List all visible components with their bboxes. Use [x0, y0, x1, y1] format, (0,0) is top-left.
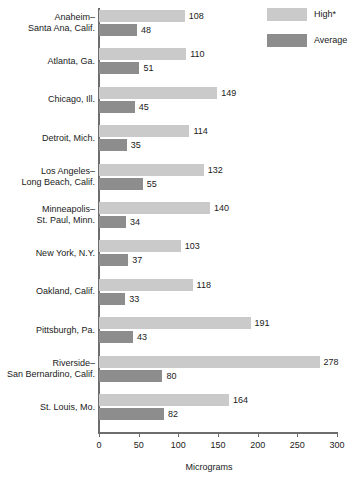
- x-axis-title: Micrograms: [0, 462, 358, 472]
- bar-value-label: 37: [132, 254, 142, 266]
- bar-value-label: 191: [255, 317, 270, 329]
- category-label: Chicago, Ill.: [0, 94, 95, 105]
- bar: [99, 293, 125, 305]
- bar: [99, 254, 128, 266]
- bar: [99, 178, 143, 190]
- bar: [99, 164, 204, 176]
- bar: [99, 48, 186, 60]
- bar: [99, 62, 139, 74]
- category-label: St. Louis, Mo.: [0, 402, 95, 413]
- x-tick-label: 0: [96, 440, 101, 450]
- bar: [99, 216, 126, 228]
- x-tick: [218, 432, 219, 437]
- bar-value-label: 140: [214, 202, 229, 214]
- bar-value-label: 43: [137, 331, 147, 343]
- bar: [99, 394, 229, 406]
- x-tick: [99, 432, 100, 437]
- x-tick: [258, 432, 259, 437]
- x-tick-label: 100: [171, 440, 186, 450]
- bar: [99, 24, 137, 36]
- plot-area: Anaheim–Santa Ana, Calif.10848Atlanta, G…: [0, 0, 358, 482]
- bar-value-label: 164: [233, 394, 248, 406]
- category-label: Anaheim–Santa Ana, Calif.: [0, 12, 95, 34]
- bar: [99, 240, 181, 252]
- x-tick-label: 300: [329, 440, 344, 450]
- bar-value-label: 33: [129, 293, 139, 305]
- x-tick-label: 50: [134, 440, 144, 450]
- bar: [99, 10, 185, 22]
- bar-value-label: 55: [147, 178, 157, 190]
- category-label: Detroit, Mich.: [0, 133, 95, 144]
- category-label: Pittsburgh, Pa.: [0, 325, 95, 336]
- bar: [99, 101, 135, 113]
- bar: [99, 139, 127, 151]
- bar-value-label: 34: [130, 216, 140, 228]
- x-tick: [297, 432, 298, 437]
- bar-value-label: 80: [166, 370, 176, 382]
- x-tick-label: 250: [290, 440, 305, 450]
- category-label: Minneapolis–St. Paul, Minn.: [0, 204, 95, 226]
- bar: [99, 125, 189, 137]
- x-tick-label: 150: [210, 440, 225, 450]
- bar-value-label: 82: [168, 408, 178, 420]
- bar-value-label: 278: [324, 356, 339, 368]
- bar: [99, 202, 210, 214]
- bar: [99, 408, 164, 420]
- bar-value-label: 114: [193, 125, 207, 137]
- bar-value-label: 103: [185, 240, 200, 252]
- category-label: Oakland, Calif.: [0, 286, 95, 297]
- x-tick: [337, 432, 338, 437]
- category-label: Riverside–San Bernardino, Calif.: [0, 358, 95, 380]
- bar: [99, 317, 251, 329]
- bar-value-label: 149: [221, 87, 236, 99]
- x-tick-label: 200: [250, 440, 265, 450]
- bar-value-label: 118: [197, 279, 211, 291]
- x-tick: [139, 432, 140, 437]
- bar: [99, 370, 162, 382]
- category-label: New York, N.Y.: [0, 248, 95, 259]
- bar-value-label: 48: [141, 24, 151, 36]
- bar: [99, 279, 193, 291]
- bar-chart: High*Average Anaheim–Santa Ana, Calif.10…: [0, 0, 358, 482]
- bar-value-label: 132: [208, 164, 223, 176]
- bar-value-label: 35: [131, 139, 141, 151]
- bar-value-label: 110: [190, 48, 204, 60]
- bar-value-label: 108: [189, 10, 204, 22]
- bar: [99, 356, 320, 368]
- bar: [99, 87, 217, 99]
- category-label: Los Angeles–Long Beach, Calif.: [0, 166, 95, 188]
- category-label: Atlanta, Ga.: [0, 56, 95, 67]
- x-tick: [178, 432, 179, 437]
- bar: [99, 331, 133, 343]
- bar-value-label: 51: [143, 62, 153, 74]
- bar-value-label: 45: [139, 101, 149, 113]
